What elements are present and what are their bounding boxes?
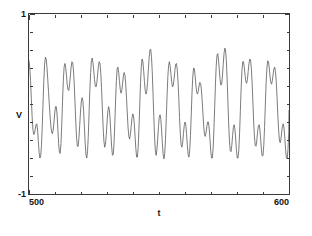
chart-figure: 1 -1 V 500 600 t <box>0 0 312 236</box>
y-tick-label-top: 1 <box>21 9 26 19</box>
x-tick-label-left: 500 <box>29 197 44 207</box>
y-axis-label: V <box>16 110 22 120</box>
y-tick-label-bottom: -1 <box>18 189 26 199</box>
x-tick-label-right: 600 <box>274 197 289 207</box>
x-axis-label: t <box>158 208 161 218</box>
line-chart-canvas: 1 -1 V 500 600 t <box>0 0 312 236</box>
